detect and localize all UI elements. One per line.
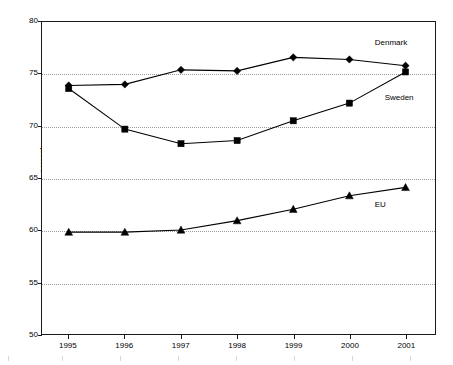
data-point-marker [290,54,297,61]
scan-artifact [62,356,63,361]
series-line [69,187,406,232]
x-tick-mark [406,335,407,339]
data-point-marker [402,69,408,75]
data-point-marker [290,118,296,124]
scan-artifact [178,356,179,361]
data-point-marker [66,85,72,91]
x-tick-label: 1996 [102,341,146,350]
data-point-marker [233,67,240,74]
x-tick-mark [350,335,351,339]
x-tick-label: 1999 [272,341,316,350]
data-point-marker [178,141,184,147]
scan-artifact [120,356,121,361]
scan-artifact [236,356,237,361]
data-point-marker [122,126,128,132]
series-label-denmark: Denmark [375,38,407,47]
scan-artifacts [0,356,453,362]
series-label-eu: EU [375,200,386,209]
data-point-marker [177,66,184,73]
x-tick-mark [68,335,69,339]
data-point-marker [346,56,353,63]
chart-figure: percent 50556065707580 19951996199719981… [0,0,453,365]
x-tick-label: 2000 [328,341,372,350]
x-tick-mark [237,335,238,339]
x-tick-label: 1995 [46,341,90,350]
x-tick-mark [181,335,182,339]
series-label-sweden: Sweden [385,93,414,102]
series-layer [42,22,435,334]
data-point-marker [402,183,410,190]
series-eu [65,183,410,235]
scan-artifact [294,356,295,361]
scan-artifact [352,356,353,361]
x-tick-mark [294,335,295,339]
data-point-marker [402,62,409,69]
x-tick-label: 2001 [384,341,428,350]
plot-area [41,21,436,335]
x-tick-mark [124,335,125,339]
data-point-marker [346,100,352,106]
x-tick-label: 1998 [215,341,259,350]
series-denmark [65,54,409,89]
scan-artifact [8,356,9,361]
scan-artifact [410,356,411,361]
series-line [69,72,406,144]
data-point-marker [121,81,128,88]
series-sweden [66,69,409,147]
data-point-marker [234,137,240,143]
x-tick-label: 1997 [159,341,203,350]
